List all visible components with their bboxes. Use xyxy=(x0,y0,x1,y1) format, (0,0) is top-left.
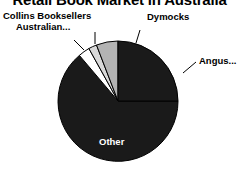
pie-label-collins: Collins Booksellers Australian... xyxy=(3,10,91,32)
pie-label-collins-line1: Collins Booksellers xyxy=(3,10,91,21)
pie-chart-figure: Retail Book Market in Australia Collins … xyxy=(0,0,239,183)
pie-label-collins-line2: Australian... xyxy=(3,21,91,32)
pie-slice-angus[interactable] xyxy=(118,41,178,101)
pie-label-dymocks: Dymocks xyxy=(147,11,189,22)
pie-label-angus: Angus... xyxy=(199,55,236,66)
leader-line-collins xyxy=(74,40,84,50)
leader-line-angus xyxy=(183,62,196,73)
leader-line-dymocks xyxy=(136,30,140,43)
pie-label-other: Other xyxy=(99,136,124,147)
